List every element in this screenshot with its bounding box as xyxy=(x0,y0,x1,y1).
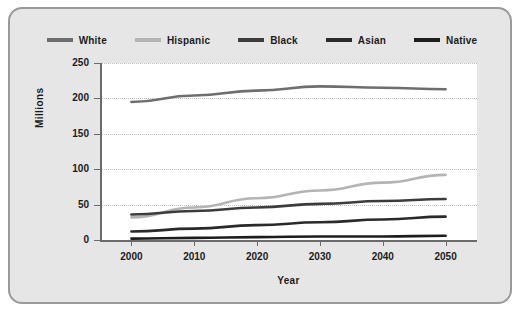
legend-swatch-asian xyxy=(326,38,352,42)
y-axis-tick-label: 50 xyxy=(78,199,89,210)
x-axis-tick-label: 2040 xyxy=(372,251,394,262)
legend-label-hispanic: Hispanic xyxy=(167,35,210,46)
x-axis-tick-label: 2030 xyxy=(309,251,331,262)
x-axis-tick-label: 2050 xyxy=(434,251,456,262)
legend-label-native: Native xyxy=(446,35,477,46)
y-axis-tick-label: 0 xyxy=(83,234,89,245)
series-line-white xyxy=(131,86,445,102)
legend-swatch-hispanic xyxy=(135,38,161,42)
legend-item-white[interactable]: White xyxy=(47,35,107,46)
series-line-black xyxy=(131,199,445,215)
series-line-asian xyxy=(131,217,445,232)
series-lines xyxy=(100,63,477,240)
legend-label-white: White xyxy=(79,35,107,46)
legend-item-asian[interactable]: Asian xyxy=(326,35,386,46)
legend-item-black[interactable]: Black xyxy=(238,35,298,46)
legend-label-asian: Asian xyxy=(358,35,386,46)
legend-item-hispanic[interactable]: Hispanic xyxy=(135,35,210,46)
y-axis-title: Millions xyxy=(34,88,45,128)
chart-legend: White Hispanic Black Asian Native xyxy=(10,31,514,49)
x-axis-tick-label: 2020 xyxy=(246,251,268,262)
x-axis-line xyxy=(100,240,477,242)
plot-frame: 050100150200250 200020102020203020402050 xyxy=(100,63,477,247)
y-axis-tick-label: 200 xyxy=(72,92,89,103)
y-axis-tick-label: 150 xyxy=(72,128,89,139)
series-line-native xyxy=(131,236,445,239)
chart-card: White Hispanic Black Asian Native Millio… xyxy=(8,7,512,304)
legend-swatch-black xyxy=(238,38,264,42)
y-axis-tick-label: 250 xyxy=(72,57,89,68)
y-axis-tick-label: 100 xyxy=(72,163,89,174)
x-axis-tick-label: 2010 xyxy=(183,251,205,262)
x-axis-title: Year xyxy=(100,275,477,286)
x-axis-tick-label: 2000 xyxy=(120,251,142,262)
legend-item-native[interactable]: Native xyxy=(414,35,477,46)
legend-swatch-native xyxy=(414,38,440,42)
legend-label-black: Black xyxy=(270,35,298,46)
legend-swatch-white xyxy=(47,38,73,42)
